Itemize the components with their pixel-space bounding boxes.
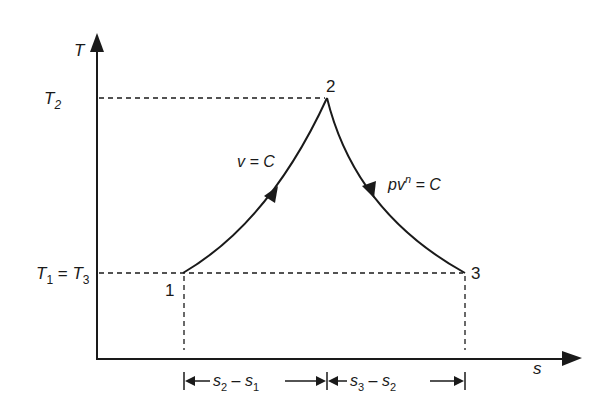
point-3-label: 3	[471, 264, 480, 283]
guide-lines	[99, 98, 465, 350]
point-2-label: 2	[326, 77, 335, 96]
t2-label: T2	[44, 89, 61, 112]
process-1-2-label: v = C	[237, 153, 275, 170]
process-2-3-label: pvn = C	[387, 173, 441, 193]
process-1-2-curve	[183, 98, 327, 273]
point-1-label: 1	[165, 281, 174, 300]
x-axis-arrow-icon	[562, 351, 582, 366]
dim-2-label: s3 – s2	[350, 372, 396, 393]
t-s-diagram: T s T2 T1 = T3 1 2 3 v = C pvn = C	[0, 0, 610, 417]
y-axis-label: T	[74, 41, 86, 60]
dim-1-left-arrow-icon	[185, 376, 195, 386]
dim-1-label: s2 – s1	[213, 372, 259, 393]
x-axis-label: s	[533, 359, 542, 378]
y-axis-arrow-icon	[90, 33, 104, 52]
dim-1-right-arrow-icon	[316, 376, 326, 386]
dim-2-left-arrow-icon	[328, 376, 338, 386]
t1-t3-label: T1 = T3	[36, 264, 90, 287]
dim-2-right-arrow-icon	[454, 376, 464, 386]
